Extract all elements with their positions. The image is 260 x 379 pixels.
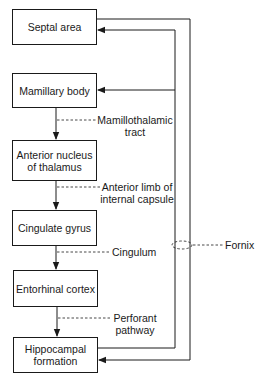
node-mamillary-body-label: Mamillary body: [19, 85, 90, 97]
label-mamillothalamic-line2: tract: [97, 126, 173, 138]
label-mamillothalamic-line1: Mamillothalamic: [97, 114, 173, 126]
label-perforant-line2: pathway: [112, 324, 158, 336]
label-perforant-pathway: Perforant pathway: [112, 312, 158, 336]
label-cingulum: Cingulum: [112, 246, 156, 258]
label-perforant-line1: Perforant: [112, 312, 158, 324]
label-anterior-limb: Anterior limb of internal capsule: [99, 181, 175, 205]
label-anterior-limb-line2: internal capsule: [99, 193, 175, 205]
node-anterior-nucleus-label-2: of thalamus: [27, 161, 81, 173]
node-septal-area-label: Septal area: [28, 21, 82, 33]
node-cingulate-gyrus-label: Cingulate gyrus: [18, 222, 91, 234]
label-fornix: Fornix: [225, 239, 254, 251]
label-anterior-limb-line1: Anterior limb of: [99, 181, 175, 193]
node-mamillary-body: Mamillary body: [12, 73, 97, 108]
node-septal-area: Septal area: [12, 9, 97, 45]
node-anterior-nucleus-label-1: Anterior nucleus: [17, 149, 93, 161]
node-cingulate-gyrus: Cingulate gyrus: [12, 210, 97, 246]
node-entorhinal-cortex: Entorhinal cortex: [13, 270, 98, 307]
node-hippocampal-formation: Hippocampal formation: [13, 337, 98, 373]
label-mamillothalamic-tract: Mamillothalamic tract: [97, 114, 173, 138]
node-anterior-nucleus: Anterior nucleus of thalamus: [12, 140, 97, 181]
node-hippocampal-formation-label-1: Hippocampal: [25, 343, 86, 355]
node-hippocampal-formation-label-2: formation: [34, 355, 78, 367]
node-entorhinal-cortex-label: Entorhinal cortex: [16, 283, 95, 295]
